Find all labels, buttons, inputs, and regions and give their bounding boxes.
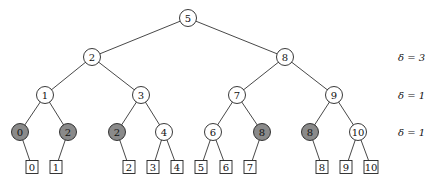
node-label: 7 [234,90,240,101]
tree-node: 4 [156,124,173,141]
tree-node: 8 [254,124,271,141]
tree-leaves: 012345678910 [26,161,378,174]
leaf-node: 4 [171,161,183,174]
tree-node: 2 [84,49,101,66]
leaf-node: 6 [220,161,232,174]
node-label: 2 [65,127,71,138]
node-label: 5 [185,13,191,24]
tree-edge [188,18,285,57]
leaf-node: 1 [50,161,62,174]
leaf-node: 2 [123,161,135,174]
leaf-node: 0 [26,161,38,174]
leaf-label: 9 [343,162,349,173]
tree-edge [285,57,334,95]
tree-node: 9 [326,87,343,104]
tree-nodes: 5281379022468810 [12,10,367,141]
leaf-label: 6 [223,162,229,173]
node-label: 2 [89,52,95,63]
leaf-label: 4 [174,162,180,173]
tree-edges [20,18,371,167]
tree-node: 2 [60,124,77,141]
leaf-node: 9 [340,161,352,174]
tree-edge [237,57,285,95]
tree-node: 8 [302,124,319,141]
tree-node: 6 [205,124,222,141]
leaf-label: 10 [365,162,378,173]
tree-node: 10 [350,124,367,141]
leaf-node: 5 [195,161,207,174]
leaf-label: 1 [53,162,59,173]
leaf-node: 10 [364,161,378,174]
delta-labels: δ = 3δ = 1δ = 1 [398,52,425,138]
leaf-node: 8 [316,161,328,174]
node-label: 10 [352,127,365,138]
leaf-label: 2 [126,162,132,173]
tree-edge [45,57,92,95]
leaf-node: 3 [147,161,159,174]
tree-diagram: 5281379022468810 012345678910 δ = 3δ = 1… [0,0,430,186]
node-label: 8 [282,52,288,63]
node-label: 2 [114,127,120,138]
node-label: 6 [210,127,216,138]
tree-node: 0 [12,124,29,141]
node-label: 8 [259,127,265,138]
node-label: 4 [161,127,167,138]
leaf-label: 0 [29,162,35,173]
tree-edge [92,57,141,95]
tree-node: 2 [109,124,126,141]
node-label: 8 [307,127,313,138]
leaf-label: 3 [150,162,156,173]
leaf-label: 5 [198,162,204,173]
leaf-label: 8 [319,162,325,173]
tree-node: 1 [37,87,54,104]
delta-label: δ = 1 [398,90,425,101]
tree-node: 3 [133,87,150,104]
node-label: 3 [138,90,144,101]
node-label: 9 [331,90,337,101]
tree-node: 5 [180,10,197,27]
node-label: 0 [17,127,23,138]
leaf-node: 7 [244,161,256,174]
leaf-label: 7 [247,162,253,173]
tree-edge [92,18,188,57]
delta-label: δ = 3 [398,52,425,63]
tree-node: 8 [277,49,294,66]
tree-node: 7 [229,87,246,104]
node-label: 1 [42,90,48,101]
delta-label: δ = 1 [398,127,425,138]
